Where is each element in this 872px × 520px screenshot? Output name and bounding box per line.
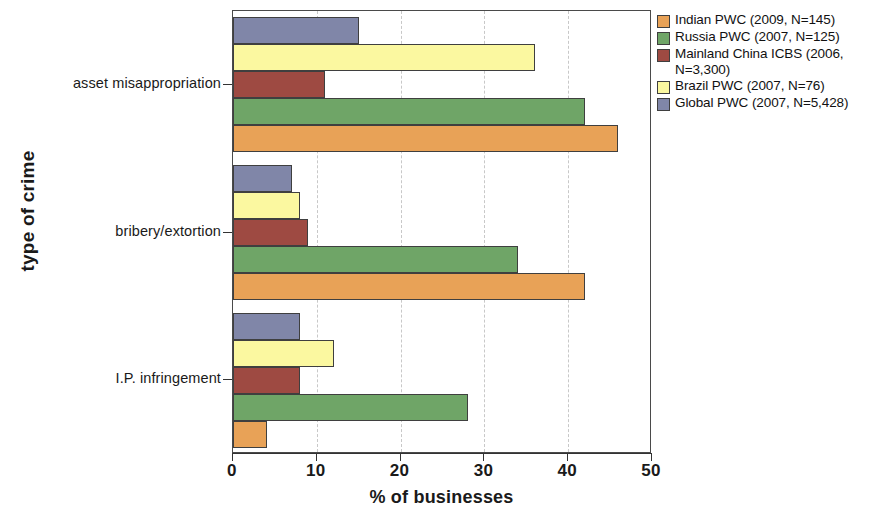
legend: Indian PWC (2009, N=145)Russia PWC (2007… <box>657 12 872 112</box>
bar <box>233 340 334 367</box>
category-tick <box>223 379 232 380</box>
legend-label: Global PWC (2007, N=5,428) <box>675 95 848 111</box>
bar <box>233 394 468 421</box>
category-label: I.P. infringement <box>116 370 221 386</box>
category-label: bribery/extortion <box>115 223 221 239</box>
x-axis-tick <box>400 453 401 461</box>
legend-item: Mainland China ICBS (2006, N=3,300) <box>657 46 872 77</box>
bar <box>233 165 292 192</box>
gridline <box>401 11 402 452</box>
x-axis-title: % of businesses <box>232 487 651 508</box>
bar <box>233 246 518 273</box>
bar <box>233 421 267 448</box>
category-tick <box>223 84 232 85</box>
legend-item: Global PWC (2007, N=5,428) <box>657 95 872 111</box>
x-axis-tick <box>567 453 568 461</box>
x-axis-tick-label: 10 <box>306 461 326 481</box>
x-axis-tick-label: 50 <box>641 461 661 481</box>
legend-swatch-icon <box>657 15 670 28</box>
bar <box>233 219 308 246</box>
x-axis-line <box>232 453 651 454</box>
x-axis-tick <box>232 453 233 461</box>
gridline <box>484 11 485 452</box>
bar <box>233 273 585 300</box>
category-tick <box>223 232 232 233</box>
x-axis-tick-label: 30 <box>474 461 494 481</box>
legend-swatch-icon <box>657 49 670 62</box>
legend-label: Mainland China ICBS (2006, N=3,300) <box>675 46 844 77</box>
legend-item: Russia PWC (2007, N=125) <box>657 29 872 45</box>
bar <box>233 313 300 340</box>
legend-swatch-icon <box>657 98 670 111</box>
bar <box>233 125 618 152</box>
legend-label: Indian PWC (2009, N=145) <box>675 12 835 28</box>
x-axis-tick <box>483 453 484 461</box>
legend-swatch-icon <box>657 81 670 94</box>
legend-swatch-icon <box>657 32 670 45</box>
x-axis-tick-label: 20 <box>390 461 410 481</box>
x-axis-tick-label: 40 <box>557 461 577 481</box>
plot-area <box>232 10 651 453</box>
bar <box>233 71 325 98</box>
gridline <box>568 11 569 452</box>
bar <box>233 44 535 71</box>
legend-label: Brazil PWC (2007, N=76) <box>675 78 825 94</box>
legend-item: Brazil PWC (2007, N=76) <box>657 78 872 94</box>
bar-chart: asset misappropriationbribery/extortionI… <box>0 0 872 520</box>
legend-label: Russia PWC (2007, N=125) <box>675 29 840 45</box>
legend-item: Indian PWC (2009, N=145) <box>657 12 872 28</box>
bar <box>233 98 585 125</box>
bar <box>233 17 359 44</box>
bar <box>233 367 300 394</box>
bar <box>233 192 300 219</box>
category-label: asset misappropriation <box>73 75 221 91</box>
x-axis-tick <box>651 453 652 461</box>
x-axis-tick-label: 0 <box>227 461 237 481</box>
y-axis-title: type of crime <box>17 111 39 311</box>
x-axis-tick <box>316 453 317 461</box>
